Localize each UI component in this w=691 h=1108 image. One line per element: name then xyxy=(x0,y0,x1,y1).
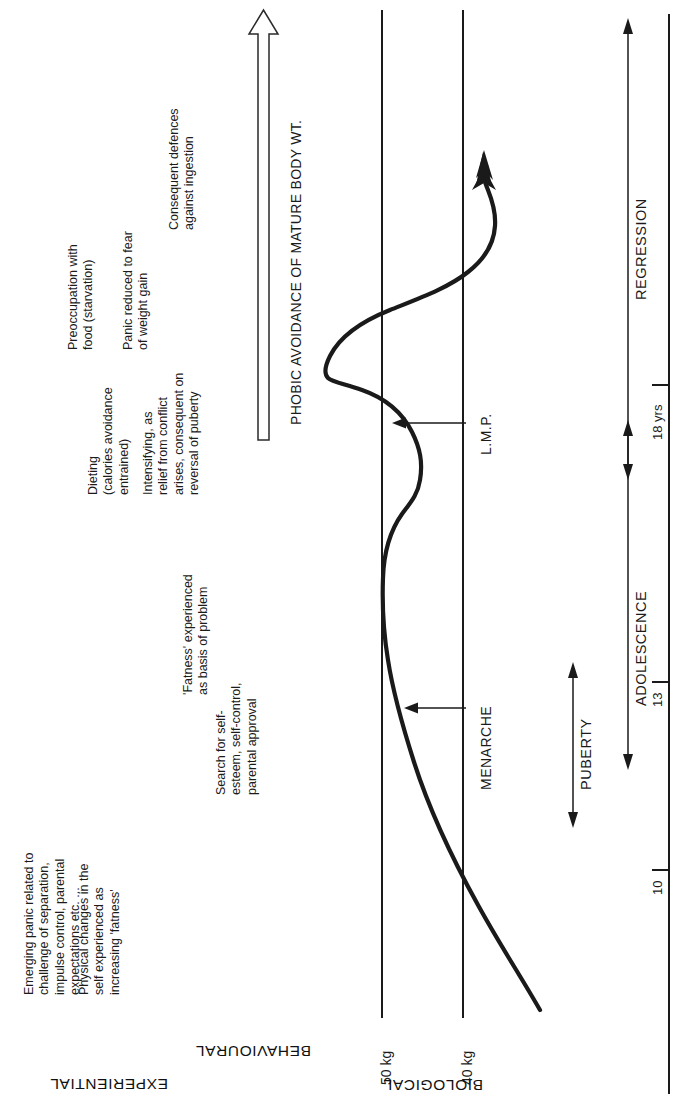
axis-tick-13 xyxy=(652,681,668,683)
axis-ticklabel-10: 10 xyxy=(650,881,665,895)
axis-tick-18 xyxy=(652,384,668,386)
axis-ticklabel-13: 13 xyxy=(650,693,665,707)
stage-band-arrows xyxy=(0,0,691,1108)
stage-label-regression: REGRESSION xyxy=(633,198,651,300)
axis-ticklabel-18: 18 yrs xyxy=(650,405,665,440)
figure-canvas: 50 kg 40 kg EXPERIENTIAL BEHAVIOURAL BIO… xyxy=(0,0,691,1108)
axis-tick-10 xyxy=(652,869,668,871)
stage-label-puberty: PUBERTY xyxy=(578,718,596,790)
time-axis xyxy=(668,14,670,1094)
stage-label-adolescence: ADOLESCENCE xyxy=(633,591,651,706)
